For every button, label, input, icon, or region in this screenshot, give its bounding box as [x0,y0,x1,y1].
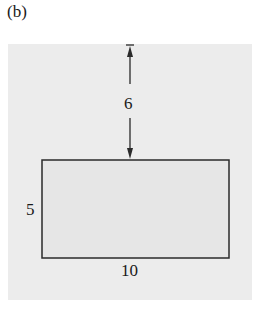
height-label: 5 [26,201,35,218]
rectangle-shape [42,160,229,258]
distance-arrow-down [127,118,133,159]
distance-arrow-up [126,45,134,84]
width-label: 10 [121,262,138,279]
distance-label: 6 [124,95,133,112]
